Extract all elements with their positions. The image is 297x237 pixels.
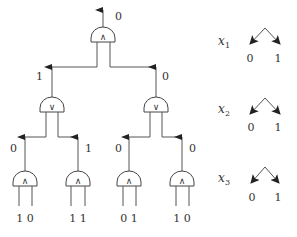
and-symbol: ∧ [75, 176, 82, 186]
legend-x3: x 3 0 1 [218, 167, 282, 204]
leaf-inputs-label: 1 0 [16, 212, 34, 225]
branch-left-arrow-icon [251, 167, 265, 183]
leaf-inputs-label: 1 1 [69, 212, 87, 225]
svg-text:x: x [218, 171, 225, 185]
branch-right-arrow-icon [265, 98, 280, 114]
leaf-inputs-label: 0 1 [120, 212, 138, 225]
svg-text:0: 0 [248, 121, 255, 134]
svg-text:x: x [218, 102, 225, 116]
root-and-gate: ∧ 0 [52, 10, 156, 67]
or-symbol: ∨ [153, 102, 160, 112]
leaf-output-label: 1 [85, 142, 92, 155]
leaf-and-gate-1: ∧ 0 1 0 [10, 137, 37, 225]
svg-text:1: 1 [225, 41, 230, 50]
left-or-gate: ∨ 1 [25, 67, 78, 137]
leaf-and-gate-4: ∧ 0 1 0 [170, 137, 196, 225]
and-symbol: ∧ [179, 176, 186, 186]
right-or-gate: ∨ 0 [129, 67, 182, 137]
leaf-and-gate-2: ∧ 1 1 1 [66, 137, 92, 225]
and-symbol: ∧ [126, 176, 133, 186]
branch-left-arrow-icon [250, 98, 265, 114]
root-output-label: 0 [115, 10, 122, 23]
svg-text:3: 3 [225, 178, 230, 187]
leaf-output-label: 0 [115, 142, 122, 155]
right-or-output-label: 0 [162, 70, 169, 83]
leaf-output-label: 0 [10, 142, 17, 155]
leaf-output-label: 0 [189, 142, 196, 155]
svg-text:2: 2 [225, 109, 230, 118]
svg-text:0: 0 [247, 52, 254, 65]
svg-text:1: 1 [275, 52, 282, 65]
circuit-diagram: ∧ 0 ∨ 1 ∨ 0 ∧ 0 1 0 [0, 0, 297, 237]
leaf-and-gate-3: ∧ 0 0 1 [115, 137, 141, 225]
svg-text:1: 1 [275, 191, 282, 204]
legend-x1: x 1 0 1 [218, 28, 282, 65]
svg-text:1: 1 [275, 121, 282, 134]
legend-x2: x 2 0 1 [218, 98, 282, 134]
leaf-inputs-label: 1 0 [173, 212, 191, 225]
svg-text:0: 0 [249, 191, 256, 204]
svg-text:x: x [218, 34, 225, 48]
left-or-output-label: 1 [36, 70, 43, 83]
and-symbol: ∧ [100, 32, 107, 42]
and-symbol: ∧ [22, 176, 29, 186]
or-symbol: ∨ [49, 102, 56, 112]
branch-right-arrow-icon [265, 167, 279, 183]
branch-right-arrow-icon [265, 28, 280, 44]
branch-left-arrow-icon [250, 28, 265, 44]
